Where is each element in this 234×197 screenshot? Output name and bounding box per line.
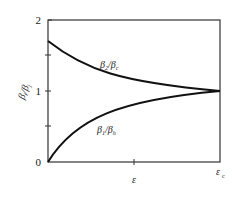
plot-frame	[48, 20, 220, 162]
svg-text:βi/βj: βi/βj	[15, 81, 32, 101]
x-label-epsilon-c: ε c	[216, 166, 225, 179]
label-beta2-betac: β2/βc	[99, 59, 119, 71]
svg-text:ε: ε	[216, 166, 220, 177]
chart: 2 1 0 ε ε c βi/βj β2/βc β1/βh	[0, 0, 234, 197]
curve-beta1-betah	[48, 91, 220, 162]
curve-beta2-betac	[48, 41, 220, 91]
y-axis-label: βi/βj	[15, 81, 32, 101]
y-tick-2: 2	[36, 14, 42, 26]
svg-text:c: c	[222, 173, 225, 179]
y-tick-0: 0	[36, 156, 42, 168]
y-tick-1: 1	[36, 85, 42, 97]
label-beta1-betah: β1/βh	[96, 124, 116, 136]
x-label-epsilon: ε	[132, 174, 136, 185]
